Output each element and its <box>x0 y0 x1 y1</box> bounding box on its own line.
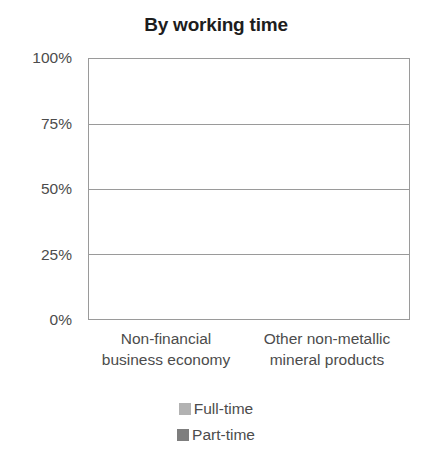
chart-container: By working time 100% 75% 50% 25% 0% Non-… <box>0 0 432 469</box>
y-tick-label-100: 100% <box>32 49 72 67</box>
x-axis-label-0: Non-financial business economy <box>82 328 250 370</box>
legend-swatch-full-time-icon <box>179 403 191 415</box>
legend-swatch-part-time-icon <box>177 429 189 441</box>
gridline-50 <box>89 189 409 190</box>
y-axis: 100% 75% 50% 25% 0% <box>0 58 80 320</box>
legend-label-part-time: Part-time <box>192 426 255 444</box>
chart-legend: Full-time Part-time <box>0 396 432 448</box>
x-axis-label-1: Other non-metallic mineral products <box>243 328 411 370</box>
x-axis-label-1-line1: Other non-metallic <box>264 330 391 347</box>
x-axis-label-0-line2: business economy <box>82 349 250 370</box>
legend-item-full-time[interactable]: Full-time <box>179 396 253 422</box>
x-axis-label-0-line1: Non-financial <box>121 330 211 347</box>
y-tick-label-0: 0% <box>50 311 72 329</box>
legend-item-part-time[interactable]: Part-time <box>177 422 255 448</box>
y-tick-label-75: 75% <box>41 115 72 133</box>
legend-label-full-time: Full-time <box>194 400 253 418</box>
x-axis-label-1-line2: mineral products <box>243 349 411 370</box>
chart-title: By working time <box>0 14 432 36</box>
y-tick-label-50: 50% <box>41 180 72 198</box>
gridline-25 <box>89 254 409 255</box>
gridline-75 <box>89 124 409 125</box>
x-axis: Non-financial business economy Other non… <box>88 328 410 378</box>
plot-area <box>88 58 410 320</box>
y-tick-label-25: 25% <box>41 246 72 264</box>
